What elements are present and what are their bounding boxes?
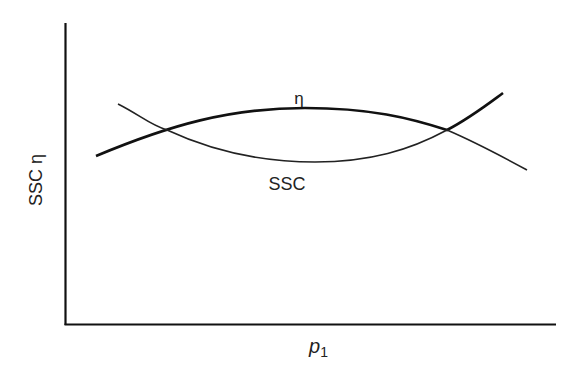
chart: η SSC SSC η p1 (0, 0, 574, 373)
x-axis-label: p1 (308, 335, 328, 360)
ssc-curve (118, 104, 527, 170)
ssc-label: SSC (268, 174, 305, 194)
x-label-sub: 1 (320, 344, 328, 360)
x-label-main: p (308, 335, 320, 357)
eta-label: η (294, 89, 303, 108)
y-axis-label: SSC η (26, 154, 46, 206)
